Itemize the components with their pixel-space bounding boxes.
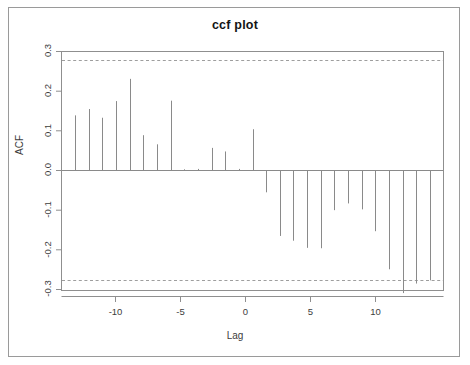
ccf-plot-figure: ccf plot [0, 0, 470, 365]
y-axis-title: ACF [14, 135, 25, 155]
acf-stem-series [76, 79, 431, 293]
y-tick-label: -0.1 [42, 195, 53, 225]
x-tick-label: 5 [294, 306, 327, 317]
y-tick-label: 0.2 [42, 78, 53, 104]
x-tick-label: 0 [229, 306, 262, 317]
y-axis [56, 51, 62, 290]
x-tick-label: -5 [164, 306, 197, 317]
y-tick-label: 0.0 [42, 157, 53, 183]
x-axis [62, 297, 444, 303]
x-tick-label: 10 [359, 306, 392, 317]
x-axis-title: Lag [0, 330, 470, 341]
y-tick-label: 0.3 [42, 38, 53, 64]
y-tick-label: -0.2 [42, 235, 53, 265]
y-tick-label: 0.1 [42, 118, 53, 144]
y-tick-label: -0.3 [42, 274, 53, 304]
x-tick-label: -10 [99, 306, 132, 317]
